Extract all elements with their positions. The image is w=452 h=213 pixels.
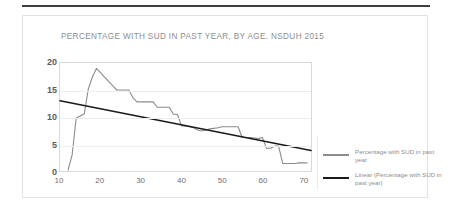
- legend-label-series: Percentage with SUD in past year: [355, 148, 443, 163]
- chart-legend: Percentage with SUD in past year Linear …: [323, 148, 443, 194]
- y-axis-tick-labels: 05101520: [31, 62, 57, 172]
- x-tick-20: 20: [95, 176, 104, 185]
- x-axis-tick-labels: 10203040506070: [59, 176, 312, 190]
- y-tick-10: 10: [47, 112, 57, 122]
- legend-divider: [317, 136, 318, 190]
- x-tick-70: 70: [299, 176, 308, 185]
- legend-item-series[interactable]: Percentage with SUD in past year: [323, 148, 443, 163]
- gridline: [60, 91, 311, 92]
- chart-screenshot: PERCENTAGE WITH SUD IN PAST YEAR, BY AGE…: [0, 0, 452, 213]
- y-tick-5: 5: [52, 140, 57, 150]
- series-paths: [60, 68, 311, 170]
- x-tick-40: 40: [177, 176, 186, 185]
- x-tick-60: 60: [259, 176, 268, 185]
- legend-swatch-trendline-icon: [323, 173, 349, 182]
- chart-card: PERCENTAGE WITH SUD IN PAST YEAR, BY AGE…: [22, 15, 428, 198]
- series-line-percentage: [68, 68, 307, 170]
- top-rule-divider: [22, 5, 430, 7]
- gridline: [60, 146, 311, 147]
- x-tick-50: 50: [218, 176, 227, 185]
- x-tick-30: 30: [136, 176, 145, 185]
- legend-item-trendline[interactable]: Linear (Percentage with SUD in past year…: [323, 171, 443, 186]
- series-line-trendline: [60, 101, 311, 151]
- y-tick-15: 15: [47, 85, 57, 95]
- gridline: [60, 118, 311, 119]
- legend-label-trendline: Linear (Percentage with SUD in past year…: [355, 171, 443, 186]
- plot-area: [59, 62, 312, 172]
- legend-swatch-series-icon: [323, 150, 349, 159]
- chart-title: PERCENTAGE WITH SUD IN PAST YEAR, BY AGE…: [61, 32, 391, 41]
- x-tick-10: 10: [55, 176, 64, 185]
- y-tick-20: 20: [47, 57, 57, 67]
- chart-plot-svg: [60, 63, 311, 171]
